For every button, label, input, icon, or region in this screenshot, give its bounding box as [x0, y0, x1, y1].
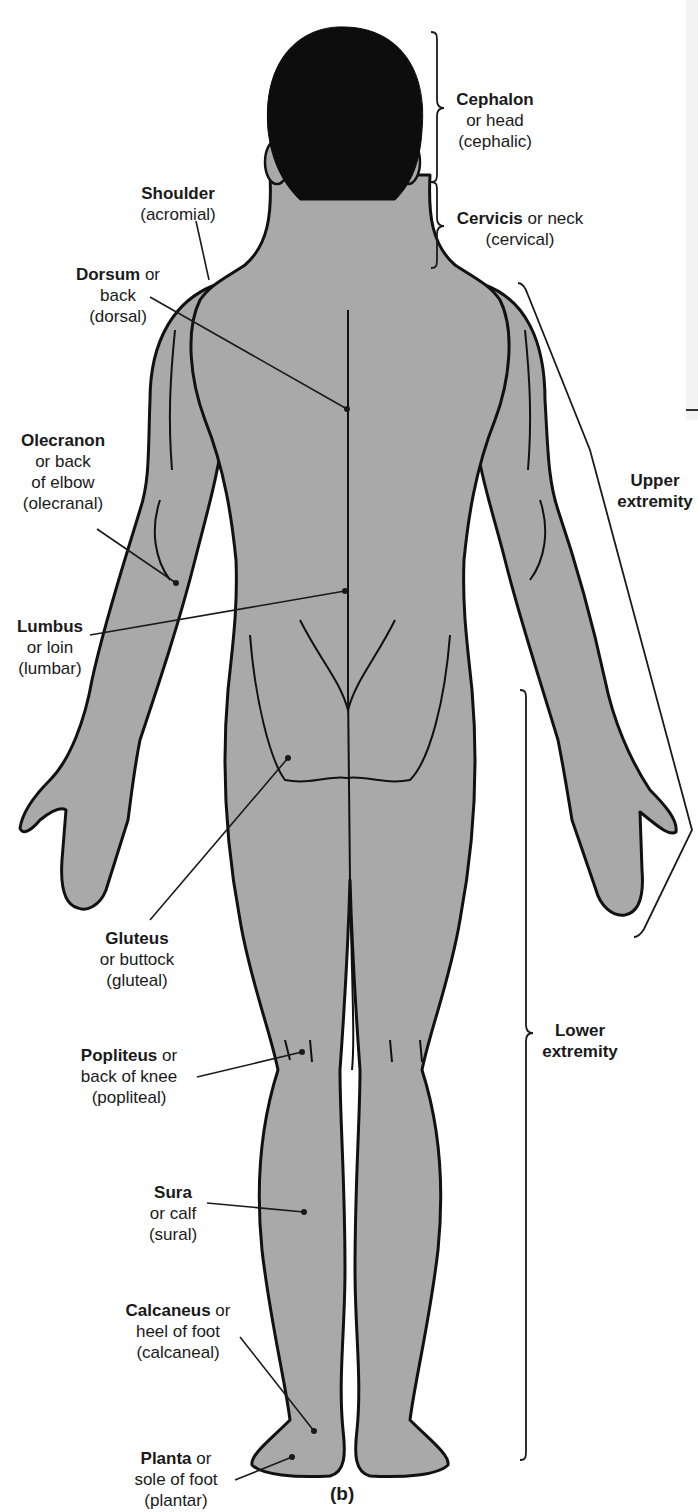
term-sura: Sura: [154, 1183, 192, 1202]
label-line: sole of foot: [134, 1469, 217, 1490]
region-label-upper-extremity: Upper extremity: [617, 470, 693, 512]
label-line: or buttock: [100, 949, 175, 970]
term-cervicis: Cervicis: [457, 209, 523, 228]
adjective-calcaneal: (calcaneal): [126, 1342, 231, 1363]
anchor-dot-calcaneus: [311, 1428, 317, 1434]
term-suffix: or: [211, 1301, 231, 1320]
term-suffix: or: [157, 1046, 177, 1065]
label-planta: Planta or sole of foot (plantar): [134, 1448, 217, 1511]
label-line: extremity: [542, 1041, 618, 1062]
anchor-dot-gluteus: [285, 755, 291, 761]
label-calcaneus: Calcaneus or heel of foot (calcaneal): [126, 1300, 231, 1363]
anchor-dot-planta: [289, 1454, 295, 1460]
label-line: Upper: [617, 470, 693, 491]
term-popliteus: Popliteus: [81, 1046, 158, 1065]
lower-extremity-bracket: [520, 690, 533, 1460]
adjective-popliteal: (popliteal): [81, 1087, 177, 1108]
label-dorsum: Dorsum or back (dorsal): [76, 264, 160, 327]
figure-caption: (b): [330, 1483, 354, 1505]
label-line: extremity: [617, 491, 693, 512]
term-suffix: or: [140, 265, 160, 284]
label-lumbus: Lumbus or loin (lumbar): [17, 616, 83, 679]
hair: [267, 27, 422, 200]
term-planta: Planta: [141, 1449, 192, 1468]
adjective-cervical: (cervical): [457, 229, 584, 250]
posterior-body-diagram: Shoulder (acromial) Dorsum or back (dors…: [0, 0, 698, 1512]
term-suffix: or: [192, 1449, 212, 1468]
label-line: Lower: [542, 1020, 618, 1041]
adjective-sural: (sural): [149, 1224, 197, 1245]
label-olecranon: Olecranon or back of elbow (olecranal): [21, 430, 105, 514]
term-dorsum: Dorsum: [76, 265, 140, 284]
body-illustration: [0, 0, 698, 1512]
label-sura: Sura or calf (sural): [149, 1182, 197, 1245]
anchor-dot-olecranon: [173, 580, 179, 586]
label-line: or calf: [149, 1203, 197, 1224]
term-gluteus: Gluteus: [105, 929, 168, 948]
adjective-lumbar: (lumbar): [17, 658, 83, 679]
adjective-olecranal: (olecranal): [21, 493, 105, 514]
adjective-gluteal: (gluteal): [100, 970, 175, 991]
label-line: or loin: [17, 637, 83, 658]
label-line: heel of foot: [126, 1321, 231, 1342]
anchor-dot-sura: [301, 1209, 307, 1215]
head: [265, 27, 423, 200]
leader-line-shoulder: [196, 221, 209, 280]
anchor-dot-lumbus: [342, 588, 348, 594]
label-cervicis: Cervicis or neck (cervical): [457, 208, 584, 250]
anchor-dot-popliteus: [299, 1049, 305, 1055]
label-shoulder: Shoulder (acromial): [140, 183, 216, 225]
term-cephalon: Cephalon: [456, 90, 533, 109]
label-line: back: [76, 285, 160, 306]
label-line: of elbow: [21, 472, 105, 493]
region-label-lower-extremity: Lower extremity: [542, 1020, 618, 1062]
term-lumbus: Lumbus: [17, 617, 83, 636]
label-popliteus: Popliteus or back of knee (popliteal): [81, 1045, 177, 1108]
adjective-acromial: (acromial): [140, 204, 216, 225]
term-calcaneus: Calcaneus: [126, 1301, 211, 1320]
label-line: or head: [456, 110, 533, 131]
label-gluteus: Gluteus or buttock (gluteal): [100, 928, 175, 991]
label-line: or back: [21, 451, 105, 472]
adjective-plantar: (plantar): [134, 1490, 217, 1511]
head-bracket: [431, 32, 444, 182]
term-suffix: or neck: [523, 209, 583, 228]
anchor-dot-dorsum: [344, 406, 350, 412]
label-line: back of knee: [81, 1066, 177, 1087]
adjective-dorsal: (dorsal): [76, 306, 160, 327]
term-olecranon: Olecranon: [21, 431, 105, 450]
adjective-cephalic: (cephalic): [456, 131, 533, 152]
label-cephalon: Cephalon or head (cephalic): [456, 89, 533, 152]
term-shoulder: Shoulder: [141, 184, 215, 203]
